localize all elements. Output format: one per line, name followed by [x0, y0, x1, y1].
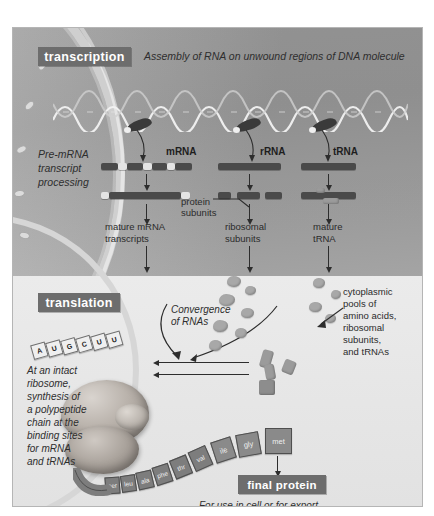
final-protein-caption: For use in cell or for export	[199, 500, 318, 507]
product-label-mrna-line2: transcripts	[105, 233, 149, 244]
processing-arrow	[328, 174, 329, 186]
ribosome-note-line-4: a polypeptide	[27, 404, 87, 416]
rna-type-label-rrna: rRNA	[260, 146, 286, 157]
pre-mrna-intron	[143, 163, 152, 170]
pre-mrna-intron	[118, 163, 127, 170]
processing-arrow	[146, 174, 147, 186]
product-label-mrna-line1: mature mRNA	[105, 221, 165, 232]
mature-mrna-body	[109, 192, 181, 199]
product-arrow	[328, 204, 329, 220]
ribosome-note-line-6: binding sites	[27, 430, 83, 442]
pools-line-6: and tRNAs	[343, 346, 389, 357]
trna-feed-arrow	[159, 362, 249, 363]
product-label-rrna-line1: ribosomal	[225, 221, 266, 232]
pre-mrna-exon	[152, 163, 167, 170]
pre-mrna-exon	[127, 163, 143, 170]
polypeptide-tail	[73, 468, 117, 504]
product-label-trna-line2: tRNA	[313, 233, 336, 244]
pools-leader-line	[309, 306, 345, 332]
product-label-rrna-line2: subunits	[225, 233, 260, 244]
trna-stem	[323, 198, 339, 204]
trna-amino-acid	[259, 380, 275, 395]
final-protein-arrow	[277, 456, 278, 472]
amino-acid-feed-arrow	[159, 374, 249, 375]
product-arrow	[146, 204, 147, 220]
transcript-leader-lines	[113, 128, 353, 164]
ribosome-binding-lobe	[115, 404, 149, 430]
pre-rrna-transcript	[218, 163, 281, 170]
ribosome-note-line-3: synthesis of	[27, 391, 80, 403]
diagram-panel: transcription Assembly of RNA on unwound…	[12, 27, 423, 507]
protein-subunits-leader	[213, 193, 255, 209]
trna-loop	[316, 188, 325, 193]
rna-type-label-mrna: mRNA	[166, 146, 197, 157]
ribosome-note-line-2: ribosome,	[27, 378, 71, 390]
pools-line-5: subunits,	[343, 334, 381, 345]
protein-subunits-line2: subunits	[181, 207, 216, 218]
processing-label-line1: Pre-mRNA	[38, 148, 89, 160]
transcription-caption: Assembly of RNA on unwound regions of DN…	[144, 50, 414, 62]
mrna-codon-letter: U	[105, 330, 124, 349]
pools-line-1: cytoplasmic	[343, 286, 393, 297]
figure-stage: transcription Assembly of RNA on unwound…	[0, 0, 434, 516]
pre-mrna-exon	[175, 163, 192, 170]
ribosome-note-line-5: chain at the	[27, 417, 79, 429]
processing-arrow	[249, 174, 250, 186]
ribosome-note-line-8: and tRNAs	[27, 456, 75, 468]
processing-label-line3: processing	[38, 176, 89, 188]
pre-mrna-exon	[101, 163, 118, 170]
export-arrow-trna	[328, 246, 329, 268]
ribosome-note-line-7: for mRNA	[27, 443, 71, 455]
pre-trna-transcript	[301, 163, 356, 170]
ribosome-note-line-1: At an intact	[27, 365, 77, 377]
final-protein-chip: final protein	[238, 475, 326, 494]
processing-label-line2: transcript	[38, 162, 81, 174]
pools-line-2: pools of	[343, 298, 376, 309]
dna-helix	[53, 90, 408, 132]
polypeptide-residue: gly	[235, 431, 262, 458]
export-arrow-rrna	[249, 246, 250, 268]
translation-chip: translation	[38, 293, 120, 312]
rna-type-label-trna: tRNA	[333, 146, 358, 157]
polypeptide-residue: leu	[120, 474, 137, 493]
mature-mrna-cap	[101, 192, 109, 199]
pools-line-4: ribosomal	[343, 322, 384, 333]
pre-mrna-intron	[167, 163, 175, 170]
product-label-trna-line1: mature	[313, 221, 343, 232]
protein-subunits-line1: protein	[181, 196, 210, 207]
export-arrow-mrna	[146, 246, 147, 268]
transcription-chip: transcription	[38, 47, 131, 66]
rrna-piece	[265, 192, 282, 199]
pools-line-3: amino acids,	[343, 310, 396, 321]
polypeptide-residue: met	[265, 428, 292, 454]
